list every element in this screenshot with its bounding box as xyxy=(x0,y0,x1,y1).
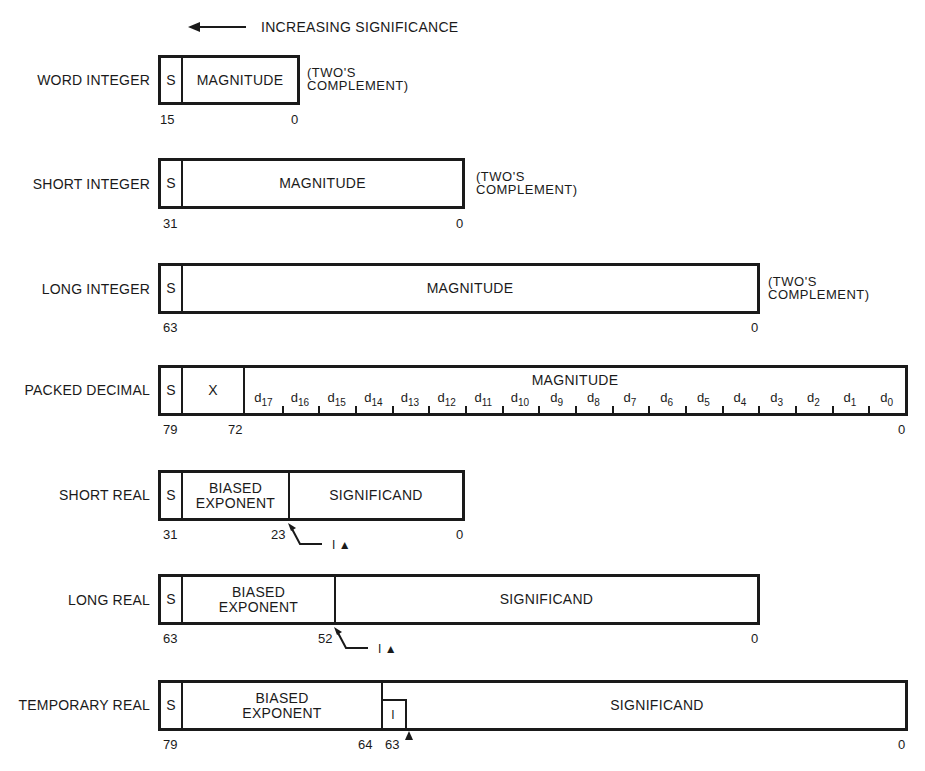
bit-mid2: 63 xyxy=(385,737,399,752)
digit-d14: d14 xyxy=(355,390,392,408)
digit-d17: d17 xyxy=(245,390,282,408)
twos-complement-note: (TWO'S COMPLEMENT) xyxy=(307,66,409,92)
format-label: SHORT REAL xyxy=(0,487,150,503)
significand-field: SIGNIFICAND xyxy=(336,577,757,622)
twos-complement-note: (TWO'S COMPLEMENT) xyxy=(768,275,870,301)
packed-decimal-box: S X MAGNITUDE d17d16d15d14d13d12d11d10d9… xyxy=(158,365,908,416)
binary-point-marker-icon xyxy=(404,731,414,741)
format-label: SHORT INTEGER xyxy=(0,176,150,192)
sign-field: S xyxy=(161,161,181,206)
exponent-field: BIASED EXPONENT xyxy=(183,683,381,728)
sign-field: S xyxy=(161,473,181,518)
exp-line: BIASED xyxy=(255,691,308,706)
digit-d10: d10 xyxy=(502,390,539,408)
bit-low: 0 xyxy=(898,737,905,752)
long-integer-box: S MAGNITUDE xyxy=(158,263,760,314)
bit-high: 15 xyxy=(160,112,174,127)
exp-line: EXPONENT xyxy=(219,600,298,615)
bit-high: 63 xyxy=(163,320,177,335)
bit-high: 31 xyxy=(163,527,177,542)
note-line: COMPLEMENT) xyxy=(768,288,870,301)
bit-mid: 72 xyxy=(228,422,242,437)
digit-d13: d13 xyxy=(392,390,429,408)
bit-low: 0 xyxy=(751,320,758,335)
digit-row: d17d16d15d14d13d12d11d10d9d8d7d6d5d4d3d2… xyxy=(245,368,905,413)
bit-low: 0 xyxy=(898,422,905,437)
digit-d8: d8 xyxy=(575,390,612,408)
bit-high: 79 xyxy=(163,422,177,437)
digit-d15: d15 xyxy=(318,390,355,408)
sign-field: S xyxy=(161,577,181,622)
exp-line: EXPONENT xyxy=(242,706,321,721)
implicit-bit-pointer-icon xyxy=(332,626,372,654)
bit-low: 0 xyxy=(456,527,463,542)
bit-high: 31 xyxy=(163,216,177,231)
digit-d16: d16 xyxy=(282,390,319,408)
long-real-box: S BIASED EXPONENT SIGNIFICAND xyxy=(158,574,760,625)
magnitude-field: MAGNITUDE xyxy=(183,266,757,311)
magnitude-field: MAGNITUDE xyxy=(183,161,462,206)
significand-field: SIGNIFICAND xyxy=(290,473,462,518)
digit-d0: d0 xyxy=(868,390,905,408)
bit-mid: 64 xyxy=(358,737,372,752)
bit-low: 0 xyxy=(456,216,463,231)
implicit-bit-label: I ▲ xyxy=(332,538,351,552)
short-real-box: S BIASED EXPONENT SIGNIFICAND xyxy=(158,470,465,521)
format-label: LONG INTEGER xyxy=(0,281,150,297)
exp-line: EXPONENT xyxy=(196,496,275,511)
sign-field: S xyxy=(161,58,181,102)
sign-field: S xyxy=(161,266,181,311)
left-arrow-icon xyxy=(188,20,248,34)
format-label: PACKED DECIMAL xyxy=(0,382,150,398)
bit-low: 0 xyxy=(751,631,758,646)
bit-mid: 52 xyxy=(318,631,332,646)
digit-d1: d1 xyxy=(832,390,869,408)
bit-high: 79 xyxy=(163,737,177,752)
digit-d2: d2 xyxy=(795,390,832,408)
bit-high: 63 xyxy=(163,631,177,646)
digit-d6: d6 xyxy=(648,390,685,408)
significand-field: SIGNIFICAND xyxy=(409,683,905,728)
digit-d4: d4 xyxy=(722,390,759,408)
exponent-field: BIASED EXPONENT xyxy=(183,473,288,518)
twos-complement-note: (TWO'S COMPLEMENT) xyxy=(476,170,578,196)
note-line: COMPLEMENT) xyxy=(307,79,409,92)
unused-field: X xyxy=(183,368,243,413)
bit-low: 0 xyxy=(291,112,298,127)
exp-line: BIASED xyxy=(209,481,262,496)
digit-d7: d7 xyxy=(612,390,649,408)
format-label: TEMPORARY REAL xyxy=(0,697,150,713)
word-integer-box: S MAGNITUDE xyxy=(158,55,300,105)
digit-d12: d12 xyxy=(428,390,465,408)
format-label: LONG REAL xyxy=(0,592,150,608)
exp-line: BIASED xyxy=(232,585,285,600)
implicit-bit-pointer-icon xyxy=(286,522,326,550)
digit-d11: d11 xyxy=(465,390,502,408)
note-line: COMPLEMENT) xyxy=(476,183,578,196)
significance-label: INCREASING SIGNIFICANCE xyxy=(261,19,458,35)
exponent-field: BIASED EXPONENT xyxy=(183,577,334,622)
format-label: WORD INTEGER xyxy=(0,72,150,88)
digit-d9: d9 xyxy=(538,390,575,408)
magnitude-field: MAGNITUDE xyxy=(183,58,297,102)
digit-d3: d3 xyxy=(758,390,795,408)
sign-field: S xyxy=(161,368,181,413)
integer-bit-field: I xyxy=(381,699,407,728)
implicit-bit-label: I ▲ xyxy=(378,642,397,656)
short-integer-box: S MAGNITUDE xyxy=(158,158,465,209)
temporary-real-box: S BIASED EXPONENT I SIGNIFICAND xyxy=(158,680,908,731)
sign-field: S xyxy=(161,683,181,728)
bit-mid: 23 xyxy=(271,527,285,542)
digit-d5: d5 xyxy=(685,390,722,408)
